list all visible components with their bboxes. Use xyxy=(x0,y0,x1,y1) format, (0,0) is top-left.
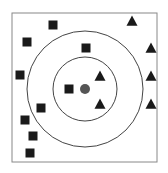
query-point xyxy=(80,84,90,94)
square-point xyxy=(16,71,25,80)
square-point xyxy=(26,149,35,158)
knn-diagram xyxy=(0,0,168,173)
triangle-point xyxy=(95,99,106,109)
square-point xyxy=(65,85,74,94)
triangle-point xyxy=(146,71,157,81)
triangle-point xyxy=(146,99,157,109)
triangle-point xyxy=(95,71,106,81)
square-point xyxy=(23,38,32,47)
square-point xyxy=(82,44,91,53)
triangle-point xyxy=(146,43,157,53)
class-triangle-points xyxy=(95,16,157,109)
square-point xyxy=(37,104,46,113)
square-point xyxy=(29,132,38,141)
square-point xyxy=(21,116,30,125)
square-point xyxy=(49,21,58,30)
triangle-point xyxy=(127,16,138,26)
